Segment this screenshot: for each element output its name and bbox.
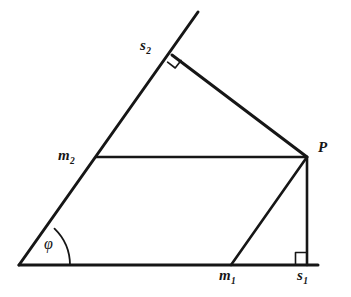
s2-to-p-segment — [172, 55, 307, 157]
geometric-diagram: s2 m2 P m1 s1 φ — [0, 0, 351, 297]
label-m2: m2 — [58, 148, 74, 163]
label-s2-subscript: 2 — [146, 46, 151, 56]
label-m2-subscript: 2 — [70, 156, 75, 166]
label-m2-base: m — [58, 147, 70, 163]
label-p-base: P — [318, 139, 327, 155]
label-m1-base: m — [219, 267, 231, 283]
label-angle-phi: φ — [44, 236, 53, 252]
label-p: P — [318, 140, 327, 155]
label-s1-base: s — [297, 267, 303, 283]
label-m1: m1 — [219, 268, 235, 283]
label-s2-base: s — [140, 37, 146, 53]
right-angle-marker-s1 — [296, 253, 308, 266]
label-s2: s2 — [140, 38, 151, 53]
inclined-ray-segment — [19, 12, 198, 265]
angle-arc-phi — [55, 229, 71, 265]
label-m1-subscript: 1 — [231, 276, 236, 286]
p-to-m1-segment — [231, 157, 307, 265]
label-s1: s1 — [297, 268, 308, 283]
figure-canvas — [0, 0, 351, 297]
label-s1-subscript: 1 — [303, 276, 308, 286]
